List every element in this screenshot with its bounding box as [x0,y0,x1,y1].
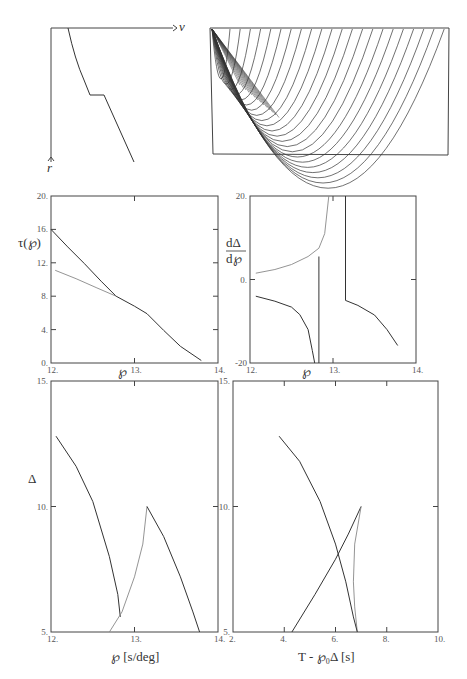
x-tick-label: 12. [47,365,58,375]
x-tick-label: 13. [131,634,142,644]
x-tick-label: 8. [383,634,390,644]
series-delta-dark-2 [147,507,200,633]
chart-dDelta_dp: 12.13.14.-200.20. [235,191,423,375]
x-tick-label: 10. [434,634,445,644]
x-tick-label: 14. [412,365,423,375]
deriv-y-label: dΔ d℘ [226,235,246,266]
ray-path [212,29,424,178]
delta-t-x-label: T - ℘₀Δ [s] [298,649,355,664]
plot-frame [51,196,218,363]
series-deriv-dark-right [346,196,398,346]
series-reduced-dark-2 [292,507,361,633]
series-reduced-dark-1 [279,436,353,617]
series-deriv-light [256,196,329,273]
chart-Delta_p: 12.13.14.5.10.15. [37,376,226,644]
chart-tau_p: 12.13.14.0.4.8.12.16.20. [37,191,226,375]
ray-path [212,29,434,183]
delta-y-label: Δ [28,471,36,486]
y-tick-label: 0. [240,275,247,285]
x-tick-label: 6. [332,634,339,644]
plot-frame [51,381,218,632]
series-delta-dark-1 [56,436,120,617]
v-axis-label: v [179,19,185,34]
y-tick-label: 4. [41,325,48,335]
ray-diagram [210,28,449,188]
y-tick-label: 15. [37,376,48,386]
figure-canvas: v r 12.13.14.0.4.8.12.16.20.12.13.14.-20… [0,0,467,679]
chart-Delta_T: 2.4.6.8.10.5.10.15. [219,376,446,644]
y-tick-label: 20. [37,191,48,201]
series-reduced-light [353,507,361,633]
y-tick-label: 8. [41,291,48,301]
y-tick-label: 10. [37,502,48,512]
x-tick-label: 13. [131,365,142,375]
r-axis-label: r [47,160,53,175]
ray-path [212,29,281,105]
velocity-profile-sketch: v r [47,19,185,175]
ray-path [212,29,444,188]
y-tick-label: 12. [37,258,48,268]
ray-diagram-frame [210,28,449,155]
x-tick-label: 2. [229,634,236,644]
y-tick-label: 15. [219,376,230,386]
y-tick-label: 10. [219,502,230,512]
velocity-curve [68,28,134,162]
series-tau-light [55,270,116,296]
tau-y-label: τ(℘) [18,235,41,250]
plot-frame [250,196,416,363]
svg-text:dΔ: dΔ [226,235,241,250]
plot-frame [233,381,438,632]
delta-p-x-label: ℘ [s/deg] [111,649,159,664]
tau-x-label: ℘ [118,364,127,379]
v-axis-arrow-icon [173,25,177,31]
series-deriv-dark-left [256,296,315,363]
x-tick-label: 12. [246,365,257,375]
y-tick-label: 20. [236,191,247,201]
series-delta-light [109,507,147,633]
y-tick-label: 16. [37,224,48,234]
x-tick-label: 4. [280,634,287,644]
y-tick-label: 0. [41,358,48,368]
x-tick-label: 13. [329,365,340,375]
deriv-x-label: ℘ [302,364,311,379]
y-tick-label: 5. [41,627,48,637]
x-tick-label: 14. [214,365,225,375]
y-tick-label: 5. [223,627,230,637]
x-tick-label: 12. [47,634,58,644]
series-tau-dark [51,229,201,360]
y-tick-label: -20 [235,358,247,368]
svg-text:d℘: d℘ [226,251,242,266]
